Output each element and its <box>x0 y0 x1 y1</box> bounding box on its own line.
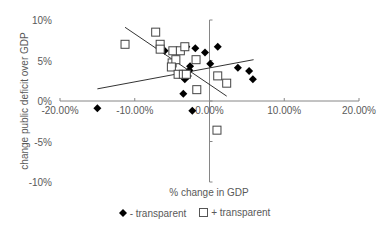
legend: - transparent + transparent <box>0 207 389 219</box>
y-tick-label: 5% <box>38 56 53 67</box>
x-tick-label: -10.00% <box>116 105 153 116</box>
y-tick-label: 10% <box>32 15 52 26</box>
data-point <box>156 45 164 53</box>
data-point <box>179 90 187 98</box>
data-point <box>214 72 222 80</box>
x-tick-label: 20.00% <box>342 105 376 116</box>
data-points <box>93 28 256 134</box>
legend-item-minus-transparent: - transparent <box>119 208 187 219</box>
data-point <box>93 104 101 112</box>
open-square-icon <box>199 208 208 217</box>
y-tick-label: 0% <box>38 96 53 107</box>
data-point <box>193 86 201 94</box>
data-point <box>213 126 221 134</box>
data-point <box>201 48 209 56</box>
y-axis-title: change public deficit over GDP <box>19 32 30 170</box>
legend-item-plus-transparent: + transparent <box>199 207 270 218</box>
x-axis-title: % change in GDP <box>169 187 249 198</box>
data-point <box>121 40 129 48</box>
data-point <box>191 44 199 52</box>
scatter-chart: -20.00%-10.00%0.00%10.00%20.00%10%5%0%-5… <box>0 0 389 231</box>
legend-label: + transparent <box>211 207 270 218</box>
data-point <box>182 70 190 78</box>
x-tick-label: 0.00% <box>195 105 223 116</box>
filled-diamond-icon <box>119 209 127 217</box>
data-point <box>181 43 189 51</box>
data-point <box>192 56 200 64</box>
axes: -20.00%-10.00%0.00%10.00%20.00%10%5%0%-5… <box>29 15 376 188</box>
y-tick-label: -5% <box>34 137 52 148</box>
y-tick-label: -10% <box>29 177 52 188</box>
data-point <box>249 75 257 83</box>
data-point <box>206 60 214 68</box>
data-point <box>214 43 222 51</box>
data-point <box>245 67 253 75</box>
data-point <box>234 64 242 72</box>
data-point <box>169 47 177 55</box>
data-point <box>223 79 231 87</box>
x-tick-label: 10.00% <box>267 105 301 116</box>
data-point <box>152 28 160 36</box>
legend-label: - transparent <box>130 208 187 219</box>
